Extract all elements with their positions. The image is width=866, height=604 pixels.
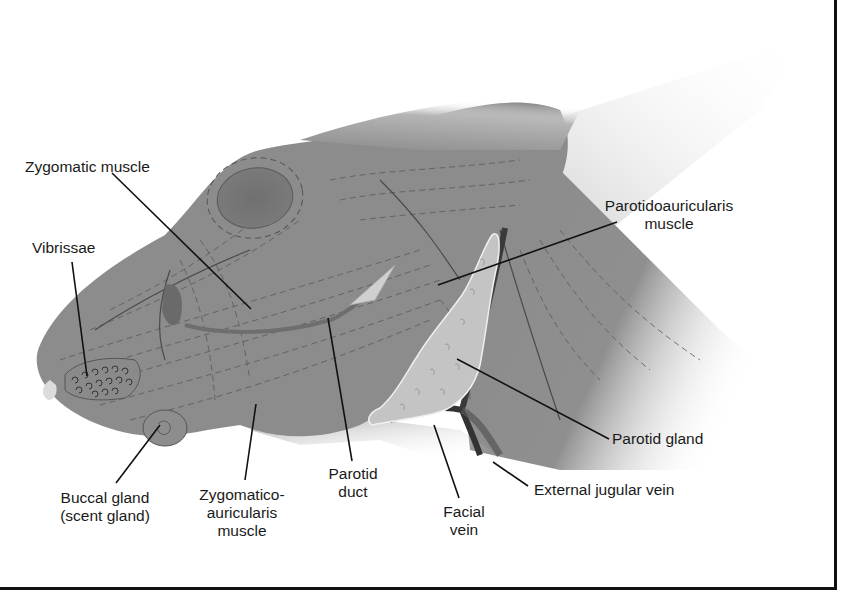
forehead-fade <box>300 95 580 150</box>
label-facial-vein: Facial vein <box>434 503 494 539</box>
label-buccal-gland: Buccal gland (scent gland) <box>50 489 160 525</box>
label-parotid-duct: Parotid duct <box>318 465 388 501</box>
label-vibrissae: Vibrissae <box>32 239 95 257</box>
label-parotidoauricularis-muscle: Parotidoauricularis muscle <box>584 197 754 233</box>
label-parotid-gland: Parotid gland <box>612 430 703 448</box>
label-zygomaticoauricularis-muscle: Zygomatico- auricularis muscle <box>184 486 300 540</box>
buccal-gland <box>143 410 187 446</box>
label-external-jugular-vein: External jugular vein <box>534 481 674 499</box>
label-zygomatic-muscle: Zygomatic muscle <box>25 158 150 176</box>
